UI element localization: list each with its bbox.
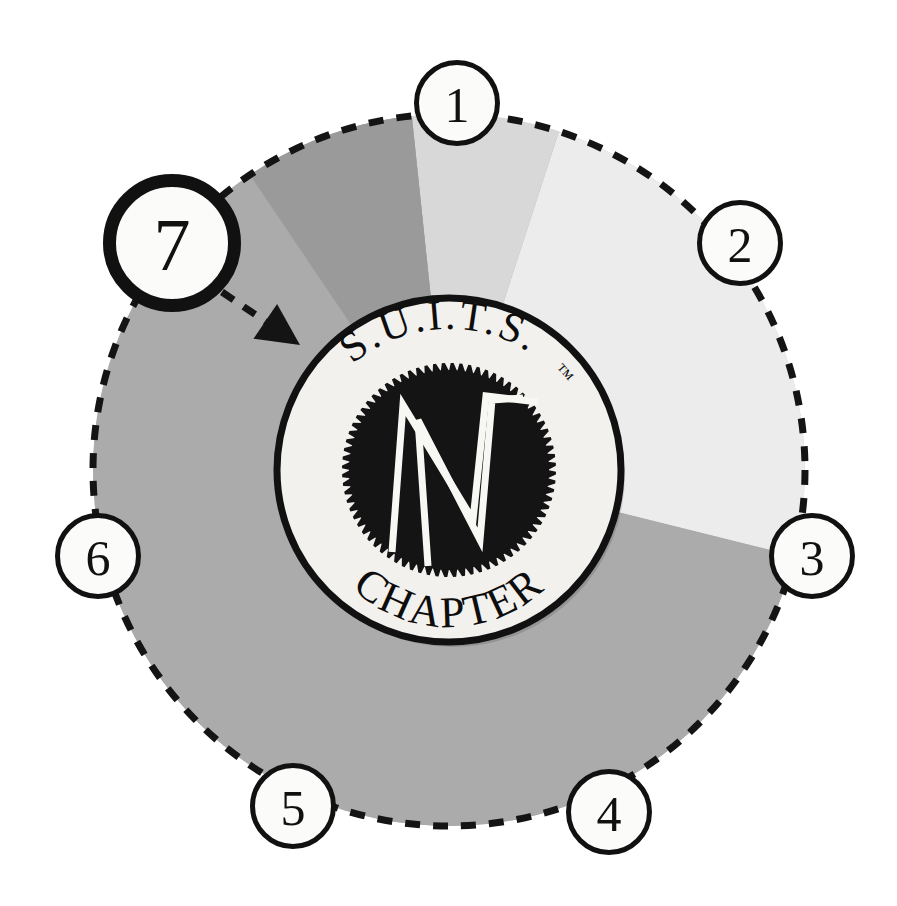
callout-label: 1 [445, 77, 470, 133]
callout-label: 2 [728, 217, 753, 273]
callout-3[interactable]: 3 [772, 516, 853, 597]
callout-2[interactable]: 2 [700, 203, 781, 284]
wheel-diagram-canvas: S.U.I.T.S. ™ CHAPTER 1234567 [0, 0, 897, 906]
callout-6[interactable]: 6 [58, 516, 139, 597]
gear-disc [342, 363, 556, 577]
callout-label: 5 [281, 780, 306, 836]
callout-5[interactable]: 5 [253, 766, 334, 847]
callout-label: 6 [86, 530, 111, 586]
callout-label: 3 [800, 530, 825, 586]
callout-7[interactable]: 7 [110, 181, 235, 306]
diagram-root: S.U.I.T.S. ™ CHAPTER 1234567 [0, 0, 897, 906]
callout-label: 4 [597, 786, 622, 842]
callout-4[interactable]: 4 [569, 772, 650, 853]
callout-1[interactable]: 1 [417, 63, 498, 144]
callout-label: 7 [154, 204, 191, 286]
